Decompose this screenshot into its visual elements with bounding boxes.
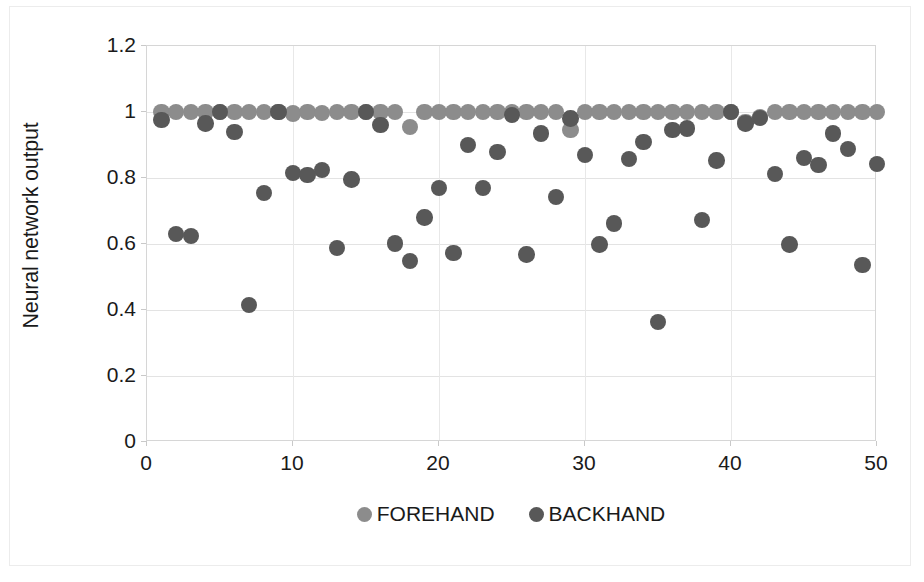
data-point-forehand: [606, 104, 622, 120]
data-point-backhand: [183, 228, 199, 244]
legend-label: BACKHAND: [549, 502, 666, 526]
data-point-backhand: [475, 180, 491, 196]
data-point-backhand: [840, 141, 856, 157]
data-point-forehand: [402, 119, 418, 135]
data-point-forehand: [460, 104, 476, 120]
data-point-backhand: [226, 124, 242, 140]
data-point-backhand: [489, 144, 505, 160]
gridline-horizontal: [147, 376, 875, 377]
data-point-backhand: [343, 171, 359, 187]
data-point-forehand: [314, 105, 330, 121]
data-point-backhand: [810, 157, 826, 173]
data-point-forehand: [168, 104, 184, 120]
plot-area: [146, 45, 876, 441]
data-point-backhand: [372, 117, 388, 133]
x-tick-label: 50: [846, 452, 906, 473]
data-point-backhand: [270, 104, 286, 120]
legend-marker-circle-icon: [529, 507, 544, 522]
x-tick-label: 40: [700, 452, 760, 473]
x-tick-mark: [584, 441, 585, 446]
x-tick-label: 30: [554, 452, 614, 473]
scatter-chart-figure: Neural network output 00.20.40.60.811.2 …: [0, 0, 924, 582]
data-point-backhand: [358, 104, 374, 120]
data-point-backhand: [577, 147, 593, 163]
y-tick-label: 0.4: [60, 298, 136, 319]
x-tick-label: 20: [408, 452, 468, 473]
data-point-backhand: [431, 180, 447, 196]
data-point-forehand: [387, 104, 403, 120]
x-tick-label: 0: [116, 452, 176, 473]
y-tick-label: 1.2: [60, 34, 136, 55]
data-point-backhand: [256, 185, 272, 201]
data-point-backhand: [314, 162, 330, 178]
data-point-backhand: [621, 151, 637, 167]
data-point-backhand: [591, 236, 607, 252]
data-point-forehand: [241, 104, 257, 120]
y-tick-label: 0.8: [60, 166, 136, 187]
x-tick-mark: [292, 441, 293, 446]
data-point-backhand: [197, 115, 213, 131]
y-tick-label: 0: [60, 430, 136, 451]
data-point-backhand: [387, 235, 403, 251]
data-point-backhand: [402, 253, 418, 269]
data-point-backhand: [650, 314, 666, 330]
legend-label: FOREHAND: [377, 502, 495, 526]
data-point-backhand: [153, 112, 169, 128]
gridline-horizontal: [147, 178, 875, 179]
data-point-backhand: [548, 189, 564, 205]
data-point-backhand: [854, 257, 870, 273]
legend-item-forehand[interactable]: FOREHAND: [357, 502, 495, 526]
x-tick-mark: [876, 441, 877, 446]
data-point-forehand: [679, 104, 695, 120]
y-tick-label: 0.2: [60, 364, 136, 385]
data-point-forehand: [533, 104, 549, 120]
data-point-backhand: [606, 215, 622, 231]
x-tick-mark: [730, 441, 731, 446]
data-point-backhand: [708, 152, 724, 168]
y-axis-title-container: Neural network output: [0, 0, 62, 450]
data-point-backhand: [504, 107, 520, 123]
data-point-backhand: [635, 134, 651, 150]
data-point-backhand: [825, 125, 841, 141]
legend-marker-circle-icon: [357, 507, 372, 522]
data-point-forehand: [825, 104, 841, 120]
data-point-backhand: [679, 120, 695, 136]
data-point-backhand: [168, 226, 184, 242]
data-point-backhand: [767, 166, 783, 182]
gridline-horizontal: [147, 310, 875, 311]
x-tick-label: 10: [262, 452, 322, 473]
x-tick-mark: [438, 441, 439, 446]
y-axis-title: Neural network output: [19, 122, 44, 328]
data-point-backhand: [416, 209, 432, 225]
data-point-backhand: [518, 246, 534, 262]
chart-legend: FOREHANDBACKHAND: [146, 497, 876, 531]
data-point-backhand: [694, 212, 710, 228]
data-point-backhand: [533, 125, 549, 141]
data-point-backhand: [562, 110, 578, 126]
gridline-horizontal: [147, 244, 875, 245]
legend-item-backhand[interactable]: BACKHAND: [529, 502, 666, 526]
data-point-backhand: [329, 240, 345, 256]
data-point-backhand: [460, 137, 476, 153]
data-point-backhand: [445, 245, 461, 261]
y-tick-label: 0.6: [60, 232, 136, 253]
y-tick-label: 1: [60, 100, 136, 121]
data-point-backhand: [752, 110, 768, 126]
x-tick-mark: [146, 441, 147, 446]
data-point-backhand: [212, 104, 228, 120]
data-point-backhand: [781, 236, 797, 252]
